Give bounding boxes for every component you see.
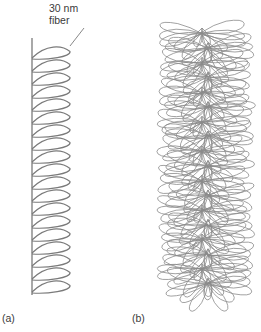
radial-loop	[208, 70, 250, 80]
fiber-loop	[32, 229, 70, 241]
fiber-loop	[32, 60, 70, 72]
callout-label-line1: 30 nm	[49, 3, 89, 15]
panel-a-label: (a)	[2, 313, 15, 325]
radial-loop	[168, 190, 208, 201]
fiber-loop	[32, 99, 70, 111]
fiber-loop	[32, 47, 70, 59]
panel-b-radial-loops	[157, 20, 255, 311]
fiber-loop	[32, 268, 70, 280]
panel-b-label: (b)	[132, 313, 145, 325]
fiber-loop	[32, 281, 70, 293]
fiber-loop	[32, 151, 70, 163]
chromatin-loops-figure	[0, 0, 261, 332]
fiber-loop	[32, 177, 70, 189]
fiber-loop	[32, 138, 70, 150]
callout-label: 30 nm fiber	[49, 3, 89, 26]
radial-loop	[208, 282, 252, 295]
fiber-loop	[32, 73, 70, 85]
fiber-loop	[32, 125, 70, 137]
fiber-loops	[32, 47, 70, 293]
fiber-loop	[32, 216, 70, 228]
callout-label-line2: fiber	[49, 15, 89, 27]
fiber-loop	[32, 203, 70, 215]
fiber-loop	[32, 242, 70, 254]
fiber-loop	[32, 112, 70, 124]
fiber-loop	[32, 86, 70, 98]
callout-leader-line	[70, 28, 84, 46]
fiber-loop	[32, 164, 70, 176]
panel-a-looped-fiber	[32, 28, 84, 295]
fiber-loop	[32, 190, 70, 202]
fiber-loop	[32, 255, 70, 267]
radial-loop	[208, 101, 255, 111]
